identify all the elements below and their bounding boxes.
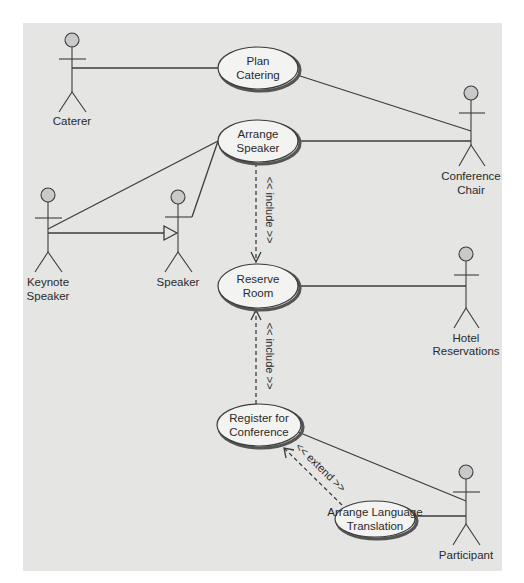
actor-label: Chair	[457, 184, 485, 196]
use-case-label: Reserve	[237, 273, 280, 285]
actor-label: Participant	[439, 549, 494, 561]
include-label-1: << include >>	[264, 177, 276, 244]
use-case-label: Conference	[229, 426, 288, 438]
actor-label: Reservations	[432, 345, 499, 357]
use-case-label: Arrange	[238, 128, 279, 140]
use-case-plan-catering[interactable]: Plan Catering	[218, 47, 300, 91]
actor-label: Caterer	[53, 115, 92, 127]
use-case-diagram: << include >> << include >> << extend >>…	[0, 0, 524, 583]
use-case-label: Plan	[246, 55, 269, 67]
use-case-label: Register for	[229, 412, 289, 424]
use-case-label: Catering	[236, 69, 279, 81]
use-case-label: Speaker	[237, 142, 280, 154]
actor-label: Hotel	[453, 332, 480, 344]
actor-label: Speaker	[157, 276, 200, 288]
use-case-label: Arrange Language	[327, 506, 422, 518]
actor-label: Speaker	[27, 290, 70, 302]
include-label-2: << include >>	[264, 323, 276, 390]
use-case-register-conference[interactable]: Register for Conference	[217, 404, 303, 448]
use-case-arrange-speaker[interactable]: Arrange Speaker	[218, 120, 300, 164]
actor-label: Conference	[441, 170, 500, 182]
actor-label: Keynote	[27, 276, 69, 288]
use-case-label: Translation	[347, 520, 403, 532]
use-case-label: Room	[243, 287, 274, 299]
use-case-reserve-room[interactable]: Reserve Room	[218, 264, 300, 310]
